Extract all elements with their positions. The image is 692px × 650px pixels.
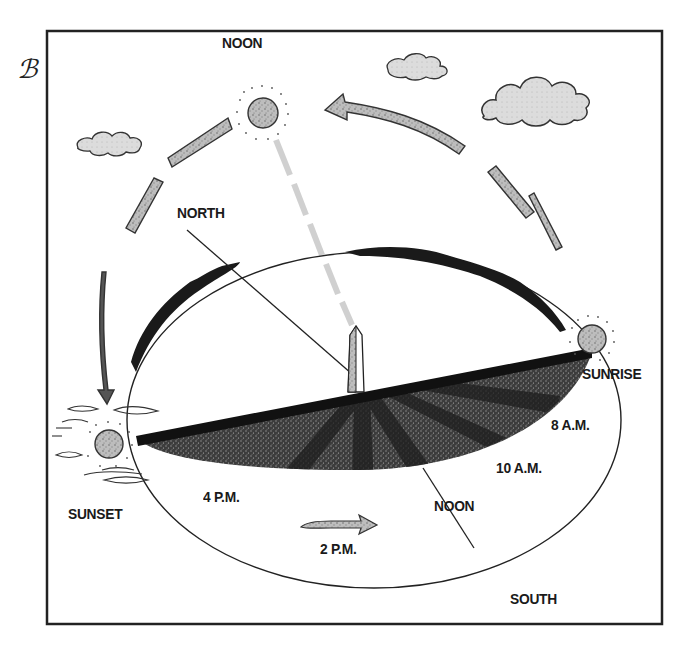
arrow-2pm-icon: [301, 515, 377, 534]
horizon-ridge: [131, 262, 240, 372]
label-2pm: 2 P.M.: [320, 540, 356, 557]
horizon-ridge: [345, 247, 566, 332]
arc-arrow-down: [98, 272, 114, 404]
arc-segment: [126, 178, 163, 233]
obelisk-gnomon: [348, 326, 364, 392]
cloud-icon: [77, 132, 141, 156]
sun-icon-sunset: [87, 421, 133, 467]
publisher-logo: ℬ: [17, 54, 37, 84]
label-8am: 8 A.M.: [551, 416, 589, 433]
sun-path-arc: [98, 94, 562, 404]
cloud-icon: [482, 77, 589, 126]
label-10am: 10 A.M.: [496, 459, 542, 476]
sun-icon-noon: [236, 85, 289, 140]
label-south: SOUTH: [510, 590, 557, 607]
arc-arrow-head: [325, 94, 465, 154]
arc-segment: [529, 193, 562, 250]
north-line: [187, 230, 352, 374]
arc-segment: [168, 118, 232, 167]
label-noon-bottom: NOON: [434, 497, 474, 514]
arc-segment: [488, 166, 534, 218]
label-4pm: 4 P.M.: [203, 488, 239, 505]
label-north: NORTH: [177, 204, 225, 221]
label-noon-top: NOON: [222, 34, 262, 51]
label-sunset: SUNSET: [68, 505, 122, 522]
label-sunrise: SUNRISE: [582, 365, 641, 382]
cloud-icon: [387, 54, 447, 80]
sunbeam: [276, 140, 352, 325]
sundial-diagram: ℬ NOON NORTH SUNRISE 8 A.M. 10 A.M. NOON…: [0, 0, 692, 650]
